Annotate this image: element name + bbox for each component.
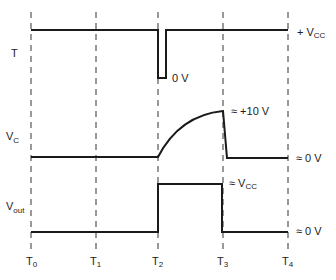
time-axis-labels: T0 T1 T2 T3 T4 xyxy=(26,255,294,269)
vc-rest-label: ≈ 0 V xyxy=(296,152,322,164)
vout-high-label: ≈ VCC xyxy=(229,177,257,191)
time-label-t0: T0 xyxy=(26,255,38,269)
row-label-vout: Vout xyxy=(6,200,25,215)
trigger-waveform xyxy=(31,30,288,78)
time-label-t1: T1 xyxy=(90,255,102,269)
output-waveform xyxy=(31,184,288,232)
vc-peak-label: ≈ +10 V xyxy=(231,105,270,117)
row-label-vc: VC xyxy=(6,130,19,145)
timing-diagram: T VC Vout + VCC 0 V ≈ +10 V ≈ 0 V ≈ VCC … xyxy=(0,0,336,280)
vout-low-label: ≈ 0 V xyxy=(296,225,322,237)
t-low-label: 0 V xyxy=(172,72,189,84)
t-high-label: + VCC xyxy=(297,26,326,40)
time-grid xyxy=(31,12,288,252)
capacitor-voltage-waveform xyxy=(31,111,288,158)
time-label-t3: T3 xyxy=(217,255,229,269)
row-label-t: T xyxy=(11,47,18,59)
time-label-t4: T4 xyxy=(282,255,294,269)
time-label-t2: T2 xyxy=(152,255,164,269)
